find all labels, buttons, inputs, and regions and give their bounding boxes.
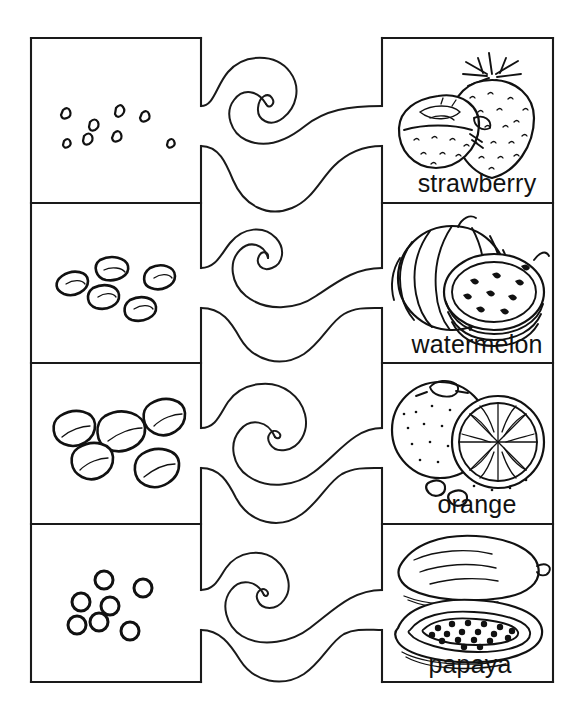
worksheet-canvas: strawberry — [0, 0, 587, 722]
seed-cluster-watermelon — [57, 257, 175, 321]
connector-row-1 — [201, 58, 382, 212]
papaya-seeds-panel — [68, 571, 152, 640]
watermelon-label: watermelon — [410, 330, 542, 358]
papaya-whole — [399, 536, 539, 601]
strawberry-label: strawberry — [418, 169, 537, 197]
orange-seeds-panel — [54, 399, 185, 487]
orange-segments — [459, 403, 537, 481]
connector-row-4 — [201, 553, 382, 682]
watermelon-picture: watermelon — [392, 216, 549, 358]
strawberry-seeds-panel — [61, 105, 175, 147]
seed-cluster-orange — [54, 399, 185, 487]
seed-cluster-papaya — [68, 571, 152, 640]
orange-picture: orange — [392, 381, 544, 518]
connector-row-2 — [201, 229, 382, 361]
orange-label: orange — [437, 490, 516, 518]
strawberry-picture: strawberry — [399, 53, 537, 197]
seed-cluster-strawberry — [61, 105, 175, 147]
papaya-label: papaya — [428, 650, 511, 678]
watermelon-slice — [444, 254, 544, 330]
papaya-picture: papaya — [395, 536, 550, 678]
connector-row-3 — [201, 384, 382, 523]
watermelon-seeds-panel — [57, 257, 175, 321]
worksheet-page: strawberry — [0, 0, 587, 722]
